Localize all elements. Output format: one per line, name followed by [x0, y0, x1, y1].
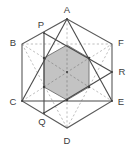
label-E: E — [118, 96, 124, 107]
dot-lower-left — [43, 86, 45, 88]
label-P: P — [38, 19, 44, 30]
label-Q: Q — [38, 116, 45, 127]
dot-vertex-E — [111, 100, 113, 102]
dot-center — [66, 71, 68, 73]
label-F: F — [118, 37, 124, 48]
figure-canvas: A B C D E F P Q R — [0, 0, 132, 152]
dot-vertex-A — [66, 18, 68, 20]
dot-vertex-Q — [43, 112, 45, 114]
dot-vertex-P — [43, 32, 45, 34]
dot-vertex-R — [111, 71, 113, 73]
dot-upper-left — [43, 57, 45, 59]
label-R: R — [119, 66, 126, 77]
label-A: A — [64, 4, 71, 15]
geometry-figure: A B C D E F P Q R — [0, 0, 132, 152]
dot-upper-right — [88, 57, 90, 59]
label-B: B — [10, 37, 16, 48]
label-C: C — [10, 96, 17, 107]
dot-bottom-center — [66, 99, 68, 101]
label-D: D — [64, 135, 71, 146]
dot-lower-right — [88, 86, 90, 88]
dot-vertex-C — [21, 100, 23, 102]
